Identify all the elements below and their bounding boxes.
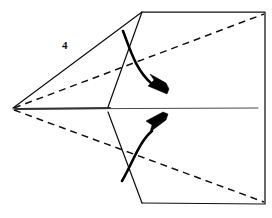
inner-flap-lower-edge [108,112,142,203]
fold-arrow-lower-head-icon [146,112,168,132]
fold-arrow-lower-curve [122,131,152,181]
fold-diagram-svg [0,0,272,218]
fold-arrow-upper-curve [123,31,152,84]
dashed-fold-line-upper [14,14,264,108]
dashed-fold-line-lower [14,110,264,202]
origami-diagram: 4 [0,0,272,218]
inner-flap-upper-edge [108,12,142,107]
step-number-label: 4 [62,40,68,51]
center-crease-line-thick-segment [16,108,110,109]
fold-arrow-upper-head-icon [148,74,169,94]
